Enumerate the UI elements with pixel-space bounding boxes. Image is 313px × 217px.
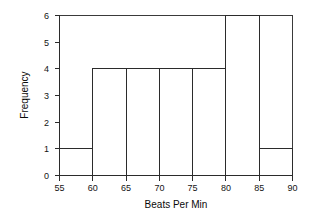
- histogram-chart: 0 1 2 3 4 5 6 55 60 65 70 75 80 85: [0, 0, 313, 217]
- x-tick-label-75: 75: [188, 183, 198, 193]
- x-axis-tick-labels: 55 60 65 70 75 80 85 90: [54, 183, 297, 193]
- bar-65-70: [126, 69, 159, 176]
- y-axis-tick-labels: 0 1 2 3 4 5 6: [44, 11, 49, 181]
- bar-55-60: [60, 149, 93, 176]
- bar-85-90: [259, 149, 292, 176]
- y-tick-label-5: 5: [44, 38, 49, 48]
- y-axis-ticks: [55, 16, 60, 176]
- y-tick-label-6: 6: [44, 11, 49, 21]
- bar-75-80: [193, 69, 226, 176]
- x-tick-label-60: 60: [88, 183, 98, 193]
- x-tick-label-70: 70: [154, 183, 164, 193]
- x-tick-label-85: 85: [254, 183, 264, 193]
- x-tick-label-55: 55: [54, 183, 64, 193]
- x-tick-label-65: 65: [121, 183, 131, 193]
- bar-60-65: [93, 69, 126, 176]
- y-axis-title: Frequency: [19, 71, 30, 118]
- y-tick-label-0: 0: [44, 171, 49, 181]
- y-tick-label-2: 2: [44, 118, 49, 128]
- x-axis-ticks: [60, 176, 293, 181]
- y-tick-label-4: 4: [44, 64, 49, 74]
- y-tick-label-1: 1: [44, 144, 49, 154]
- bar-70-75: [159, 69, 192, 176]
- x-tick-label-90: 90: [287, 183, 297, 193]
- y-tick-label-3: 3: [44, 91, 49, 101]
- bar-80-85: [226, 16, 259, 176]
- histogram-bars: [60, 16, 293, 176]
- x-tick-label-80: 80: [221, 183, 231, 193]
- x-axis-title: Beats Per Min: [145, 199, 208, 210]
- chart-canvas: 0 1 2 3 4 5 6 55 60 65 70 75 80 85: [0, 0, 313, 217]
